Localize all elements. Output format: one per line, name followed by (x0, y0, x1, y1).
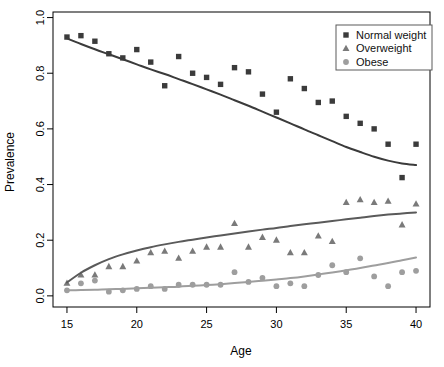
y-tick-label: 0.8 (34, 66, 46, 81)
trend-line (67, 257, 416, 290)
x-tick-label: 30 (270, 318, 282, 330)
legend-item-normal-weight[interactable]: Normal weight (343, 29, 426, 41)
data-point-circle (357, 255, 363, 261)
data-point-triangle (147, 249, 154, 255)
data-point-square (316, 100, 321, 105)
data-point-triangle (399, 221, 406, 227)
data-point-square (176, 54, 181, 59)
y-axis: 0.00.20.40.60.81.0 (34, 10, 53, 304)
y-tick-label: 0.2 (34, 233, 46, 248)
data-point-circle (274, 283, 280, 289)
data-point-square (371, 126, 376, 131)
data-point-square (78, 33, 83, 38)
data-point-triangle (161, 247, 168, 253)
data-point-triangle (189, 247, 196, 253)
data-point-square (232, 65, 237, 70)
x-axis: 152025303540 (61, 307, 422, 330)
y-tick-label: 0.0 (34, 288, 46, 303)
data-point-square (246, 69, 251, 74)
trend-line (67, 212, 416, 282)
data-point-square (343, 32, 348, 37)
data-point-triangle (329, 238, 336, 244)
data-point-triangle (315, 232, 322, 238)
data-point-triangle (119, 263, 126, 269)
data-point-square (204, 75, 209, 80)
data-point-triangle (245, 243, 252, 249)
data-point-square (385, 141, 390, 146)
data-point-square (413, 141, 418, 146)
data-point-circle (385, 283, 391, 289)
data-point-triangle (91, 271, 98, 277)
x-tick-label: 40 (410, 318, 422, 330)
data-point-circle (399, 269, 405, 275)
data-point-square (344, 114, 349, 119)
data-point-circle (413, 268, 419, 274)
data-point-square (162, 83, 167, 88)
legend-label: Obese (356, 56, 388, 68)
data-point-circle (78, 280, 84, 286)
data-point-square (399, 175, 404, 180)
data-series-group (63, 33, 419, 295)
data-point-circle (287, 280, 293, 286)
data-point-square (190, 71, 195, 76)
x-axis-title: Age (230, 344, 252, 358)
y-tick-label: 0.6 (34, 121, 46, 136)
data-point-square (274, 109, 279, 114)
data-point-square (302, 86, 307, 91)
legend-label: Overweight (356, 42, 412, 54)
data-point-triangle (217, 243, 224, 249)
data-point-square (148, 59, 153, 64)
data-point-triangle (133, 257, 140, 263)
y-tick-label: 0.4 (34, 177, 46, 192)
scatter-plot: 152025303540 0.00.20.40.60.81.0 Normal w… (0, 0, 444, 367)
x-tick-label: 20 (131, 318, 143, 330)
data-point-triangle (287, 249, 294, 255)
data-point-square (92, 39, 97, 44)
data-point-triangle (273, 236, 280, 242)
chart-page: 152025303540 0.00.20.40.60.81.0 Normal w… (0, 0, 444, 367)
data-point-triangle (301, 249, 308, 255)
data-point-circle (232, 269, 238, 275)
y-tick-label: 1.0 (34, 10, 46, 25)
data-point-triangle (203, 243, 210, 249)
data-point-circle (371, 273, 377, 279)
data-point-circle (343, 59, 349, 65)
data-point-triangle (385, 197, 392, 203)
data-point-triangle (175, 254, 182, 260)
x-tick-label: 35 (340, 318, 352, 330)
data-point-triangle (357, 196, 364, 202)
data-point-triangle (231, 220, 238, 226)
data-point-triangle (371, 199, 378, 205)
data-point-square (260, 91, 265, 96)
data-point-square (357, 121, 362, 126)
legend: Normal weightOverweightObese (336, 25, 432, 70)
data-point-square (330, 98, 335, 103)
data-point-triangle (259, 234, 266, 240)
data-point-triangle (343, 199, 350, 205)
series-obese (64, 255, 419, 294)
data-point-circle (301, 283, 307, 289)
legend-label: Normal weight (356, 29, 426, 41)
data-point-square (288, 76, 293, 81)
data-point-square (218, 82, 223, 87)
y-axis-title: Prevalence (3, 132, 17, 192)
x-tick-label: 15 (61, 318, 73, 330)
data-point-square (134, 47, 139, 52)
data-point-circle (92, 278, 98, 284)
data-point-triangle (105, 263, 112, 269)
series-overweight (63, 196, 419, 286)
data-point-triangle (413, 200, 420, 206)
data-point-circle (329, 262, 335, 268)
x-tick-label: 25 (200, 318, 212, 330)
